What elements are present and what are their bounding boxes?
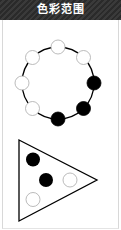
triangle-node-center xyxy=(39,173,53,187)
circle-node-top-left xyxy=(26,51,40,65)
diagram-canvas xyxy=(0,0,121,230)
triangle-figure xyxy=(19,140,97,221)
triangle-node-upper-left xyxy=(26,153,40,167)
triangle-node-lower-left xyxy=(26,193,40,207)
circle-node-top-right xyxy=(77,51,91,65)
circle-node-right xyxy=(87,76,101,90)
circle-node-top xyxy=(51,40,65,54)
circle-node-bottom-left xyxy=(26,102,40,116)
triangle-node-right xyxy=(63,173,77,187)
circle-node-bottom xyxy=(51,112,65,126)
triangle-outline xyxy=(19,140,97,221)
circle-node-left xyxy=(15,76,29,90)
circle-figure xyxy=(15,40,101,126)
circle-node-bottom-right xyxy=(77,102,91,116)
